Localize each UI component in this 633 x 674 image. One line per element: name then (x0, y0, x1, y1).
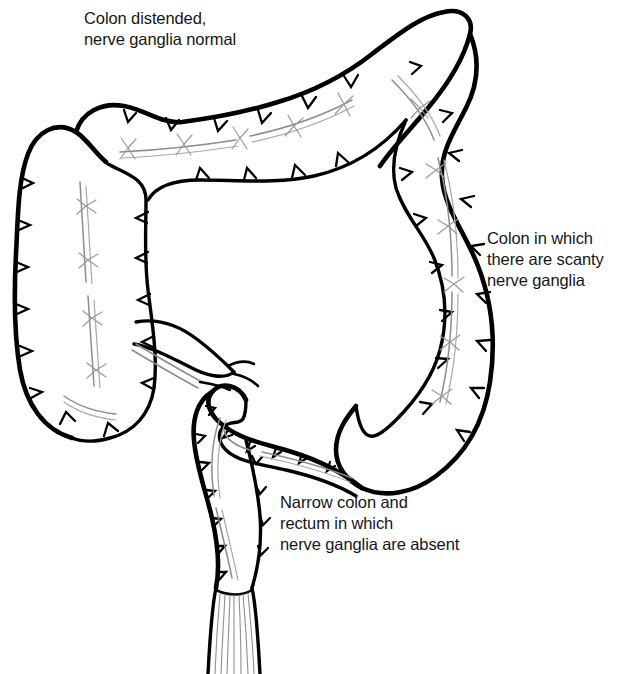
label-scanty-ganglia: Colon in which there are scanty nerve ga… (487, 228, 604, 291)
figure-canvas: Colon distended, nerve ganglia normal Co… (0, 0, 633, 674)
colon-illustration (0, 0, 633, 674)
label-absent-ganglia: Narrow colon and rectum in which nerve g… (280, 492, 459, 555)
label-colon-distended: Colon distended, nerve ganglia normal (84, 8, 236, 50)
